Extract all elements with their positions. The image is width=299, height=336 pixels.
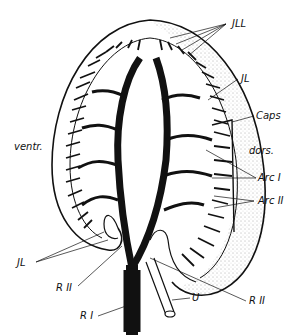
pelvis-right — [150, 230, 196, 282]
label-caps: Caps — [256, 111, 281, 121]
pelvis-left — [104, 215, 118, 238]
label-jl-bottom: JL — [17, 258, 26, 268]
diagram-drawing — [0, 0, 299, 336]
label-r1: R I — [80, 311, 93, 321]
label-u: U — [192, 293, 199, 303]
label-r2-right: R II — [249, 296, 265, 306]
label-arc-1: Arc I — [258, 173, 281, 183]
label-r2-left: R II — [56, 283, 72, 293]
label-ventr: ventr. — [14, 142, 43, 152]
kidney-diagram: JLL JL Caps dors. ventr. Arc I Arc II JL… — [0, 0, 299, 336]
label-arc-2: Arc II — [258, 196, 284, 206]
label-jl-top: JL — [241, 74, 250, 84]
label-dors: dors. — [249, 146, 274, 156]
label-jll: JLL — [232, 19, 246, 29]
